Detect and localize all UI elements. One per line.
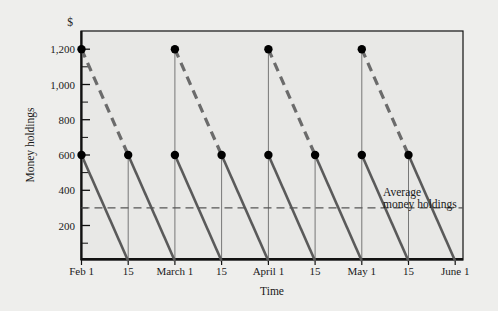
x-axis-title: Time — [260, 285, 284, 297]
y-tick-label-400: 400 — [59, 184, 76, 196]
marker-may1-600 — [358, 151, 366, 159]
x-tick-label-feb-1: Feb 1 — [69, 265, 94, 277]
y-axis-title: Money holdings — [24, 107, 37, 183]
x-tick-label-may-1: May 1 — [348, 265, 376, 277]
currency-symbol-label: $ — [67, 16, 73, 28]
marker-april15-600 — [311, 151, 319, 159]
y-tick-label-800: 800 — [59, 114, 76, 126]
marker-feb15-600 — [124, 151, 132, 159]
x-tick-label-may-15: 15 — [403, 265, 415, 277]
x-tick-label-april-15: 15 — [310, 265, 322, 277]
y-tick-label-1000: 1,000 — [50, 79, 75, 91]
x-tick-label-june-1: June 1 — [441, 265, 469, 277]
marker-feb1-1200 — [77, 45, 85, 53]
chart-canvas: $ 1,200 1,000 800 600 400 200 — [0, 0, 498, 311]
x-tick-label-march-1: March 1 — [156, 265, 193, 277]
marker-feb1-600 — [77, 151, 85, 159]
x-tick-label-april-1: April 1 — [253, 265, 284, 277]
marker-may15-600 — [404, 151, 412, 159]
x-tick-label-march-15: 15 — [216, 265, 228, 277]
marker-may1-1200 — [358, 45, 366, 53]
x-tick-label-feb-15: 15 — [123, 265, 135, 277]
y-tick-label-600: 600 — [59, 149, 76, 161]
money-holdings-figure: $ 1,200 1,000 800 600 400 200 — [0, 0, 498, 311]
x-axis-tick-labels: Feb 1 15 March 1 15 April 1 15 May 1 15 … — [69, 265, 469, 277]
average-annotation-line2: money holdings — [383, 198, 457, 211]
marker-march15-600 — [217, 151, 225, 159]
marker-march1-1200 — [171, 45, 179, 53]
marker-april1-1200 — [264, 45, 272, 53]
y-tick-label-200: 200 — [59, 220, 76, 232]
y-tick-label-1200: 1,200 — [50, 43, 75, 55]
marker-april1-600 — [264, 151, 272, 159]
marker-march1-600 — [171, 151, 179, 159]
